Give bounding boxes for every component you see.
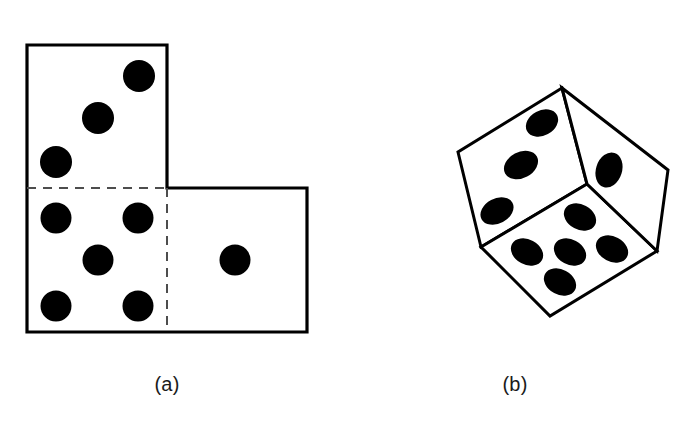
dice-net-panel	[27, 45, 307, 332]
pip	[40, 146, 72, 178]
panel-label-a: (a)	[0, 373, 334, 396]
dice-cube-panel	[458, 88, 668, 316]
pip	[123, 203, 154, 234]
pip	[220, 245, 251, 276]
pip	[41, 203, 72, 234]
figure-root: (a) (b)	[0, 0, 682, 446]
pip	[123, 291, 154, 322]
panel-label-b: (b)	[348, 373, 682, 396]
pip	[41, 291, 72, 322]
pip	[123, 60, 155, 92]
pip	[82, 102, 114, 134]
net-face-bottom-right-pip-group	[220, 245, 251, 276]
pip	[83, 245, 114, 276]
